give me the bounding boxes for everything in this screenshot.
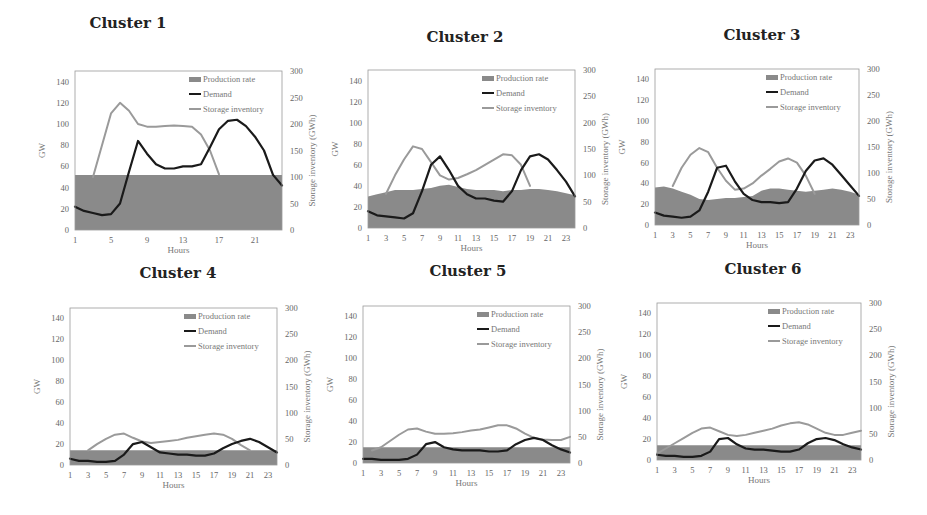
y-tick-label: 140 bbox=[638, 308, 651, 318]
legend-label-storage: Storage inventory bbox=[782, 336, 843, 346]
y-axis-label: GW bbox=[619, 374, 629, 389]
x-tick-label: 3 bbox=[673, 465, 677, 475]
y-right-tick-label: 250 bbox=[869, 324, 882, 334]
y-tick-label: 120 bbox=[638, 329, 651, 339]
y-tick-label: 40 bbox=[643, 413, 652, 423]
legend: Production rateDemandStorage inventory bbox=[768, 306, 843, 346]
x-tick-label: 19 bbox=[812, 465, 821, 475]
y-tick-label: 20 bbox=[643, 434, 652, 444]
y-tick-label: 0 bbox=[647, 455, 651, 465]
legend-label-demand: Demand bbox=[782, 321, 812, 331]
y-right-tick-label: 50 bbox=[869, 429, 878, 439]
x-tick-label: 7 bbox=[708, 465, 712, 475]
y-tick-label: 80 bbox=[643, 371, 652, 381]
x-axis-label: Hours bbox=[748, 475, 770, 485]
y-right-tick-label: 300 bbox=[869, 298, 882, 308]
x-tick-label: 13 bbox=[759, 465, 768, 475]
x-tick-label: 21 bbox=[830, 465, 839, 475]
chart-svg: 0204060801001201400501001502002503001357… bbox=[0, 0, 927, 515]
y-right-tick-label: 100 bbox=[869, 403, 882, 413]
legend-label-production: Production rate bbox=[782, 306, 834, 316]
legend-swatch-production bbox=[768, 309, 780, 314]
x-tick-label: 17 bbox=[795, 465, 804, 475]
x-tick-label: 15 bbox=[777, 465, 786, 475]
y-tick-label: 100 bbox=[638, 350, 651, 360]
y-right-axis-label: Storage inventory (GWh) bbox=[886, 346, 896, 438]
x-tick-label: 5 bbox=[690, 465, 694, 475]
x-tick-label: 23 bbox=[848, 465, 857, 475]
y-right-tick-label: 200 bbox=[869, 350, 882, 360]
y-right-tick-label: 0 bbox=[869, 455, 873, 465]
x-tick-label: 1 bbox=[655, 465, 659, 475]
x-tick-label: 11 bbox=[742, 465, 750, 475]
y-right-tick-label: 150 bbox=[869, 377, 882, 387]
x-tick-label: 9 bbox=[726, 465, 730, 475]
y-tick-label: 60 bbox=[643, 392, 652, 402]
